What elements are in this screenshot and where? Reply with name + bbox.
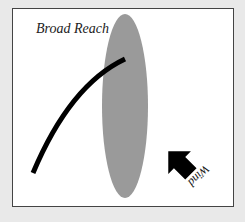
boat-hull <box>102 14 148 198</box>
diagram-title: Broad Reach <box>36 21 109 36</box>
sailing-diagram: Broad Reach Wind <box>0 0 245 222</box>
